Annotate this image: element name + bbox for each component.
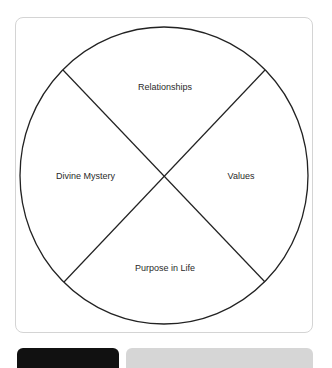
light-tab-bar[interactable] [126, 348, 313, 368]
quadrant-label-right: Values [228, 171, 255, 181]
quadrant-label-left: Divine Mystery [56, 171, 116, 181]
quadrant-label-top: Relationships [138, 82, 193, 92]
dark-tab[interactable] [17, 348, 119, 368]
quadrant-label-bottom: Purpose in Life [135, 263, 195, 273]
